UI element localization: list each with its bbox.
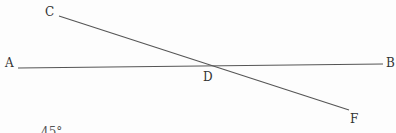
- point-label-a: A: [5, 57, 14, 69]
- line-ab: [18, 64, 383, 68]
- cropped-text-fragment-1: –: [110, 0, 116, 3]
- angle-caption-partial: 45°: [41, 126, 62, 133]
- point-label-c: C: [45, 6, 54, 18]
- cropped-text-fragment-2: –: [183, 0, 189, 3]
- line-cf: [59, 16, 349, 110]
- point-label-d: D: [203, 71, 213, 83]
- intersecting-lines-figure: [0, 0, 396, 133]
- diagram-canvas: C A B D F 45° – –: [0, 0, 396, 133]
- point-label-b: B: [386, 57, 395, 69]
- point-label-f: F: [350, 113, 358, 125]
